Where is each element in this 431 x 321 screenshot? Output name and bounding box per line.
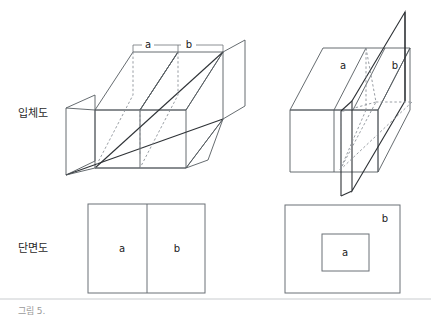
section-left-label-a: a — [119, 243, 125, 254]
panel-top-left: a b — [66, 39, 245, 175]
technical-figure: a b — [0, 0, 431, 321]
hidden-diagonal-4 — [340, 102, 412, 170]
row-label-section: 단면도 — [18, 242, 48, 255]
left-front-plane — [66, 95, 95, 175]
left-plane-top-connector — [66, 108, 95, 110]
slicing-plane — [352, 12, 405, 191]
panel-bottom-right: a b — [285, 205, 400, 293]
slicing-plane-mid-edge — [341, 101, 352, 111]
panel-bottom-left: a b — [88, 204, 205, 293]
section-right-label-b: b — [382, 213, 388, 224]
right-rear-plane — [223, 40, 245, 119]
panel-top-right: a b — [290, 12, 412, 196]
top-plane-right-cell — [140, 52, 223, 110]
slicing-plane-bottom-edge — [341, 191, 352, 196]
top-plane-left-cell — [95, 52, 178, 110]
brace-line-1 — [140, 52, 178, 110]
figure-container: a b — [0, 0, 431, 321]
hidden-diagonal-1 — [340, 48, 376, 112]
hidden-diagonal-2 — [340, 110, 366, 170]
cutting-plane-edge-lower — [66, 119, 223, 175]
section-right-label-a: a — [342, 247, 348, 258]
dimension-label-b: b — [186, 39, 192, 50]
figure-caption: 그림 5. — [18, 305, 45, 316]
top-face-ridge-1 — [334, 48, 366, 110]
brace-line-3 — [186, 119, 223, 168]
top-face-ridge-2 — [353, 48, 385, 110]
row-label-isometric: 입체도 — [18, 107, 48, 120]
top-right-label-b: b — [392, 60, 398, 71]
top-right-label-a: a — [340, 60, 346, 71]
section-left-label-b: b — [174, 243, 180, 254]
dimension-label-a: a — [145, 39, 151, 50]
